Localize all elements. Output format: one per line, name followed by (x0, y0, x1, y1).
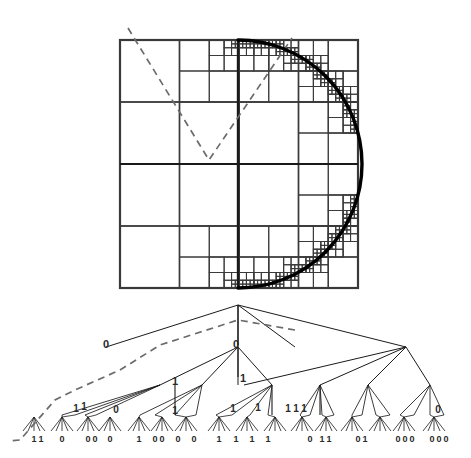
tree-leaf-label-22: 0 (409, 434, 414, 444)
tree-leaf-label-5: 0 (107, 434, 112, 444)
tree-node-label-13: 0 (435, 404, 441, 415)
tree-leaf-label-25: 0 (443, 434, 448, 444)
tree-leaf-label-9: 0 (175, 434, 180, 444)
tree-node-label-11: 1 (293, 403, 299, 414)
tree-node-label-12: 1 (301, 403, 307, 414)
tree-leaf-label-18: 0 (355, 434, 360, 444)
tree-leaf-label-21: 0 (402, 434, 407, 444)
tree-node-label-1: 0 (233, 338, 239, 350)
tree-leaf-label-0: 1 (31, 434, 36, 444)
tree-leaf-label-3: 0 (85, 434, 90, 444)
tree-leaf-label-15: 0 (307, 434, 312, 444)
tree-node-label-6: 0 (113, 404, 119, 415)
tree-leaf-label-20: 0 (395, 434, 400, 444)
tree-leaf-label-14: 1 (265, 434, 270, 444)
tree-leaf-label-16: 1 (319, 434, 324, 444)
tree-node-label-0: 0 (103, 338, 109, 350)
tree-node-label-9: 1 (255, 402, 261, 413)
tree-leaf-label-4: 0 (92, 434, 97, 444)
tree-node-label-8: 1 (230, 403, 236, 414)
tree-leaf-label-19: 1 (362, 434, 367, 444)
tree-leaf-label-8: 0 (159, 434, 164, 444)
figure-root: 0011110111111011000010000111101101000000 (0, 0, 471, 458)
tree-leaf-label-6: 1 (136, 434, 141, 444)
tree-node-label-4: 1 (73, 403, 79, 414)
tree-leaf-label-10: 0 (191, 434, 196, 444)
tree-leaf-label-12: 1 (233, 434, 238, 444)
tree-node-label-2: 1 (172, 375, 178, 387)
tree-leaf-label-17: 1 (326, 434, 331, 444)
tree-leaf-label-11: 1 (216, 434, 221, 444)
diagram-canvas: 0011110111111011000010000111101101000000 (0, 0, 471, 458)
tree-node-label-10: 1 (285, 403, 291, 414)
tree-leaf-label-2: 0 (59, 434, 64, 444)
tree-node-label-7: 1 (172, 405, 178, 416)
tree-leaf-label-13: 1 (249, 434, 254, 444)
tree-leaf-label-23: 0 (429, 434, 434, 444)
tree-node-label-3: 1 (240, 372, 246, 384)
tree-leaf-label-1: 1 (38, 434, 43, 444)
tree-leaf-label-24: 0 (436, 434, 441, 444)
canvas-background (0, 0, 471, 458)
tree-leaf-label-7: 0 (152, 434, 157, 444)
tree-node-label-5: 1 (81, 401, 87, 412)
